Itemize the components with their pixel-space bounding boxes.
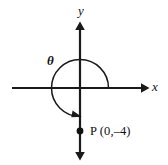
x-axis-label: x: [152, 80, 158, 93]
y-axis-label: y: [78, 4, 84, 17]
y-axis-arrowhead-up-icon: [75, 22, 85, 31]
point-p-label: P (0,–4): [90, 125, 131, 138]
point-marker-p: [77, 128, 84, 135]
y-axis-arrowhead-down-icon: [75, 152, 85, 161]
x-axis-arrowhead-icon: [141, 83, 150, 93]
axes-and-angle-graphic: [0, 0, 168, 165]
coordinate-plane-figure: y x θ P (0,–4): [0, 0, 168, 165]
angle-theta-label: θ: [47, 54, 54, 67]
